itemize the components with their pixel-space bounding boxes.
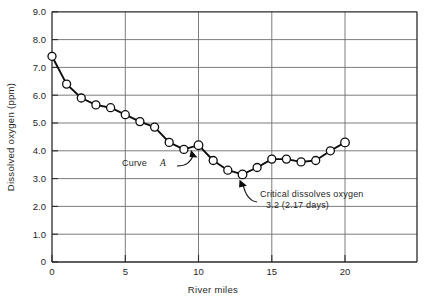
ytick-label-9: 9.0 bbox=[33, 6, 46, 17]
critical-do-label-line2: 3.2 (2.17 days) bbox=[266, 200, 329, 210]
data-point bbox=[48, 52, 56, 60]
data-point bbox=[282, 155, 290, 163]
x-axis-title: River miles bbox=[188, 284, 238, 295]
chart-figure: 0 1.0 2.0 3.0 4.0 5.0 6.0 7.0 8.0 9.0 0 … bbox=[0, 0, 428, 304]
data-point bbox=[341, 138, 350, 147]
data-point bbox=[268, 155, 276, 163]
data-point bbox=[209, 157, 217, 165]
curve-a-label: Curve bbox=[122, 158, 147, 168]
ytick-label-5: 5.0 bbox=[33, 117, 46, 128]
ytick-label-0: 0 bbox=[41, 256, 46, 267]
data-point bbox=[151, 123, 159, 131]
data-point bbox=[92, 101, 100, 109]
data-point bbox=[297, 158, 305, 166]
data-point bbox=[77, 94, 85, 102]
xtick-label-0: 0 bbox=[49, 266, 54, 277]
xtick-label-10: 10 bbox=[193, 266, 204, 277]
xtick-label-20: 20 bbox=[340, 266, 351, 277]
ytick-label-3: 3.0 bbox=[33, 173, 46, 184]
chart-background bbox=[0, 0, 428, 304]
y-axis-title: Dissolved oxygen (ppm) bbox=[5, 83, 16, 192]
data-point bbox=[107, 104, 115, 112]
ytick-label-8: 8.0 bbox=[33, 34, 46, 45]
data-point bbox=[224, 166, 232, 174]
data-point bbox=[238, 170, 247, 179]
ytick-label-6: 6.0 bbox=[33, 90, 46, 101]
data-point bbox=[165, 138, 173, 146]
dissolved-oxygen-sag-chart: 0 1.0 2.0 3.0 4.0 5.0 6.0 7.0 8.0 9.0 0 … bbox=[0, 0, 428, 304]
ytick-label-2: 2.0 bbox=[33, 201, 46, 212]
data-point bbox=[194, 141, 203, 150]
ytick-label-1: 1.0 bbox=[33, 229, 46, 240]
ytick-label-7: 7.0 bbox=[33, 62, 46, 73]
data-point bbox=[136, 118, 144, 126]
data-point bbox=[326, 147, 334, 155]
ytick-label-4: 4.0 bbox=[33, 145, 46, 156]
xtick-label-5: 5 bbox=[123, 266, 128, 277]
curve-a-label-italic: A bbox=[159, 158, 166, 168]
xtick-label-15: 15 bbox=[267, 266, 278, 277]
critical-do-label-line1: Critical dissolves oxygen bbox=[260, 189, 364, 199]
data-point bbox=[180, 145, 188, 153]
data-point bbox=[312, 157, 320, 165]
data-point bbox=[253, 164, 261, 172]
data-point bbox=[121, 111, 129, 119]
data-point bbox=[63, 80, 71, 88]
